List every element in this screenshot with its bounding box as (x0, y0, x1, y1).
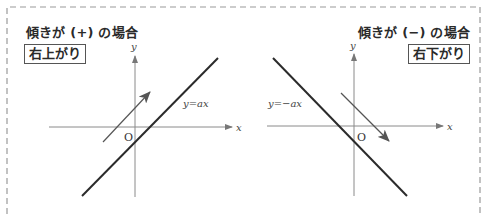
left-line-label: y=ax (182, 98, 209, 109)
left-graph (49, 56, 232, 197)
right-direction-badge: 右下がり (408, 44, 470, 64)
right-line-y-minus-ax (273, 58, 407, 196)
left-x-axis-label: x (236, 122, 242, 133)
right-origin-label: O (357, 131, 366, 144)
left-panel-title: 傾きが (+) の場合 (26, 22, 138, 41)
left-direction-badge: 右上がり (24, 44, 86, 64)
right-line-label: y=−ax (267, 98, 302, 109)
right-panel-title: 傾きが (−) の場合 (358, 22, 470, 41)
right-graph (267, 54, 443, 196)
left-y-axis-label: y (130, 41, 137, 52)
right-y-axis-label: y (349, 40, 356, 51)
left-origin-label: O (124, 131, 133, 144)
right-x-axis-label: x (447, 121, 453, 132)
